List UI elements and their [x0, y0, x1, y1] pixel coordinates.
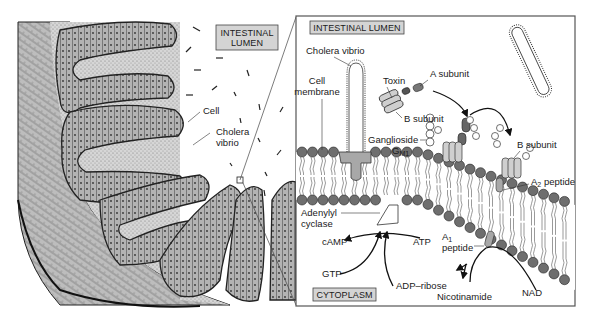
- overview-lumen-label: INTESTINAL LUMEN: [216, 25, 278, 50]
- cytoplasm-text: CYTOPLASM: [316, 290, 372, 300]
- label-ganglioside: Ganglioside: [368, 134, 418, 145]
- label-nicotinamide: Nicotinamide: [437, 291, 492, 302]
- label-gtp: GTP: [322, 268, 342, 279]
- label-a1-peptide-line2: peptide: [442, 242, 473, 253]
- label-cell-membrane-line2: membrane: [294, 86, 339, 97]
- detail-lumen-text: INTESTINAL LUMEN: [313, 23, 400, 33]
- label-b-subunit-left: B subunit: [404, 113, 444, 124]
- detail-panel: INTESTINAL LUMEN CYTOPLASM Cholera vibri…: [294, 16, 575, 306]
- label-camp: cAMP: [322, 236, 347, 247]
- cholera-vibrio-bacterium: [347, 60, 365, 152]
- label-toxin: Toxin: [383, 75, 405, 86]
- intestinal-wall-tissue: [18, 17, 296, 307]
- label-atp: ATP: [413, 236, 431, 247]
- label-cell-membrane-line1: Cell: [309, 75, 325, 86]
- label-adenylyl-line2: cyclase: [301, 218, 333, 229]
- a2-peptide-shape: [496, 178, 503, 192]
- cholera-toxin-figure: INTESTINAL LUMEN Cell Cholera vibrio: [0, 0, 593, 324]
- lumen-bacteria: [186, 27, 283, 196]
- label-cholera-vibrio: Cholera vibrio: [306, 45, 365, 56]
- cytoplasm-label: CYTOPLASM: [313, 288, 376, 301]
- label-adp-ribose: ADP–ribose: [396, 280, 447, 291]
- detail-lumen-label: INTESTINAL LUMEN: [310, 21, 404, 34]
- vibrio-label-line1: Cholera: [216, 126, 250, 137]
- label-a-subunit: A subunit: [430, 68, 469, 79]
- label-nad: NAD: [522, 287, 542, 298]
- cell-label: Cell: [203, 105, 219, 116]
- vibrio-label-line2: vibrio: [216, 137, 239, 148]
- lumen-label-line2: LUMEN: [231, 38, 263, 48]
- label-b-subunit-right: B subunit: [517, 139, 557, 150]
- b-subunit-pentamer-right: [502, 158, 521, 178]
- lumen-label-line1: INTESTINAL: [220, 28, 273, 38]
- label-adenylyl-line1: Adenylyl: [301, 207, 337, 218]
